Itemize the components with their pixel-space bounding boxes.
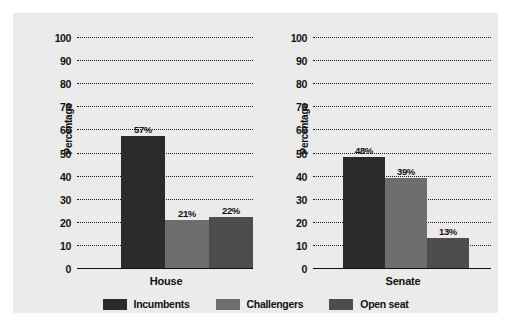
- gridline-90: 90: [77, 60, 253, 61]
- legend-swatch-challengers: [216, 299, 240, 310]
- legend-label-challengers: Challengers: [247, 298, 304, 310]
- axis-baseline-house: 0: [77, 268, 253, 269]
- plot-area-house: 100 90 80 70 60 50 40 30 20 10 0 57% 21%: [77, 37, 253, 268]
- legend-label-open-seat: Open seat: [360, 298, 408, 310]
- bar-value-house-incumbents: 57%: [134, 124, 152, 135]
- y-tick-60: 60: [296, 124, 307, 136]
- bar-senate-incumbents[interactable]: 48%: [343, 157, 385, 268]
- y-tick-90: 90: [60, 55, 71, 67]
- legend-item-incumbents[interactable]: Incumbents: [103, 298, 190, 310]
- legend-item-challengers[interactable]: Challengers: [216, 298, 304, 310]
- y-tick-70: 70: [60, 101, 71, 113]
- y-tick-10: 10: [60, 240, 71, 252]
- bar-senate-open-seat[interactable]: 13%: [427, 238, 469, 268]
- legend-item-open-seat[interactable]: Open seat: [329, 298, 408, 310]
- y-tick-50: 50: [296, 148, 307, 160]
- gridline-80: 80: [313, 83, 491, 84]
- gridline-80: 80: [77, 83, 253, 84]
- bar-house-incumbents[interactable]: 57%: [121, 136, 165, 268]
- gridline-70: 70: [77, 106, 253, 107]
- y-tick-30: 30: [296, 194, 307, 206]
- gridline-30: 30: [77, 199, 253, 200]
- y-tick-10: 10: [296, 240, 307, 252]
- bar-house-challengers[interactable]: 21%: [165, 220, 209, 269]
- y-tick-50: 50: [60, 148, 71, 160]
- legend-swatch-incumbents: [103, 299, 127, 310]
- chart-panel: Percentage 100 90 80 70 60 50 40 30 20 1…: [13, 13, 498, 313]
- gridline-100: 100: [77, 37, 253, 38]
- y-tick-0: 0: [302, 263, 307, 275]
- y-tick-20: 20: [296, 217, 307, 229]
- bar-house-open-seat[interactable]: 22%: [209, 217, 253, 268]
- y-tick-40: 40: [296, 171, 307, 183]
- legend-label-incumbents: Incumbents: [134, 298, 190, 310]
- figure: Percentage 100 90 80 70 60 50 40 30 20 1…: [0, 0, 511, 331]
- gridline-50: 50: [77, 153, 253, 154]
- gridline-90: 90: [313, 60, 491, 61]
- y-tick-90: 90: [296, 55, 307, 67]
- y-tick-70: 70: [296, 101, 307, 113]
- plot-area-senate: 100 90 80 70 60 50 40 30 20 10 0 48% 39%: [313, 37, 491, 268]
- bar-value-senate-incumbents: 48%: [355, 145, 373, 156]
- gridline-40: 40: [77, 176, 253, 177]
- gridline-60: 60: [313, 129, 491, 130]
- legend-swatch-open-seat: [329, 299, 353, 310]
- chart-group-senate: Percentage 100 90 80 70 60 50 40 30 20 1…: [261, 13, 493, 313]
- y-tick-20: 20: [60, 217, 71, 229]
- gridline-100: 100: [313, 37, 491, 38]
- y-tick-30: 30: [60, 194, 71, 206]
- gridline-70: 70: [313, 106, 491, 107]
- bar-value-senate-open-seat: 13%: [439, 226, 457, 237]
- gridline-50: 50: [313, 153, 491, 154]
- y-tick-80: 80: [296, 78, 307, 90]
- group-label-senate: Senate: [321, 275, 485, 287]
- bar-value-senate-challengers: 39%: [397, 166, 415, 177]
- group-label-house: House: [85, 275, 247, 287]
- bar-value-house-open-seat: 22%: [222, 205, 240, 216]
- y-tick-40: 40: [60, 171, 71, 183]
- y-tick-60: 60: [60, 124, 71, 136]
- axis-baseline-senate: 0: [313, 268, 491, 269]
- bar-value-house-challengers: 21%: [178, 208, 196, 219]
- y-tick-100: 100: [291, 32, 307, 44]
- gridline-60: 60: [77, 129, 253, 130]
- chart-group-house: Percentage 100 90 80 70 60 50 40 30 20 1…: [25, 13, 255, 313]
- y-tick-100: 100: [55, 32, 71, 44]
- y-tick-0: 0: [66, 263, 71, 275]
- chart-legend: Incumbents Challengers Open seat: [13, 298, 498, 310]
- y-tick-80: 80: [60, 78, 71, 90]
- bar-senate-challengers[interactable]: 39%: [385, 178, 427, 268]
